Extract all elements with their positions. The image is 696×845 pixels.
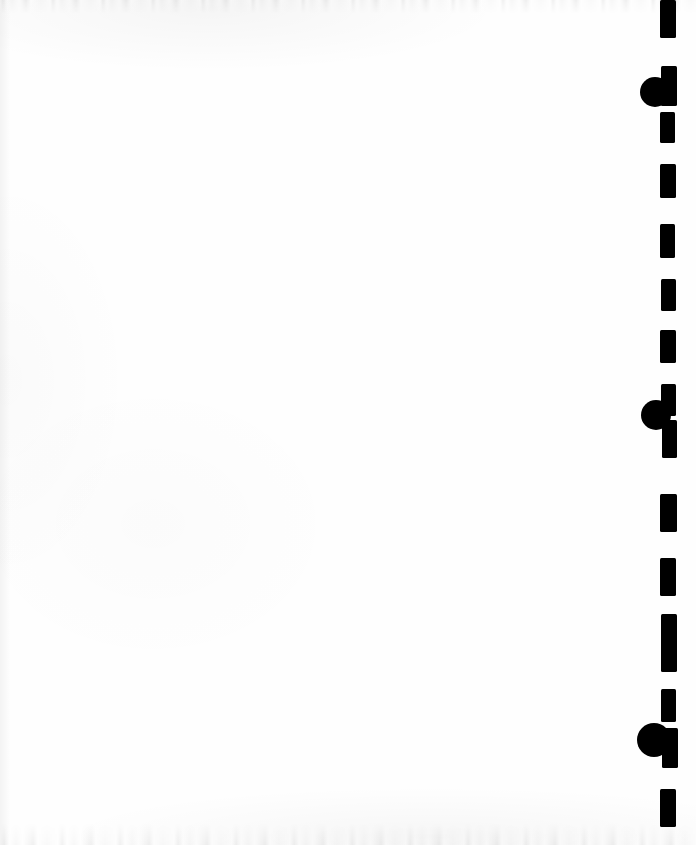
rule-dash: [660, 789, 676, 827]
filled-circle-mark-1: [640, 77, 670, 107]
rule-dash: [661, 279, 676, 311]
rule-dash: [660, 0, 676, 38]
rule-dash: [660, 558, 676, 596]
rule-dash: [660, 494, 677, 532]
rule-dash: [661, 689, 676, 722]
dashed-rule-and-circles-svg: [0, 0, 696, 845]
scanned-page: [0, 0, 696, 845]
filled-circle-mark-2: [641, 400, 671, 430]
rule-dash: [660, 164, 676, 198]
filled-circle-mark-3: [637, 723, 671, 757]
margin-marks-layer: [0, 0, 696, 845]
rule-dash: [661, 634, 677, 672]
rule-dash: [660, 330, 676, 363]
rule-dash: [660, 224, 675, 258]
rule-dash: [660, 112, 675, 143]
